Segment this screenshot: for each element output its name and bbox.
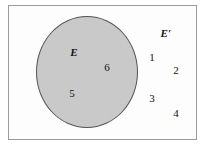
element-number: 1: [149, 52, 155, 63]
element-number: 5: [69, 88, 75, 99]
element-number: 4: [173, 108, 179, 119]
element-number: 3: [149, 93, 155, 104]
set-e-label: E: [70, 47, 78, 58]
element-number: 2: [173, 65, 179, 76]
set-e-circle: [36, 16, 138, 128]
venn-diagram-figure: E E′ 6 5 1 2 3 4: [0, 0, 207, 151]
element-number: 6: [104, 62, 110, 73]
set-e-complement-label: E′: [161, 28, 172, 39]
